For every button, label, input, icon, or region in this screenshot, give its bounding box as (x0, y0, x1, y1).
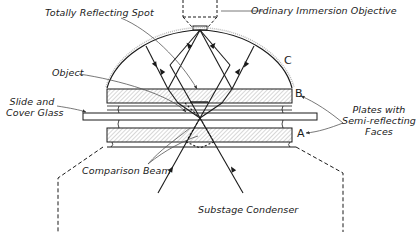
diagram-canvas: Totally Reflecting Spot Ordinary Immersi… (0, 0, 417, 232)
letter-b: B (295, 87, 303, 100)
label-ordinary-immersion-objective: Ordinary Immersion Objective (251, 5, 397, 16)
label-substage-condenser: Substage Condenser (198, 204, 298, 215)
label-comparison-beam: Comparison Beam (82, 165, 171, 176)
dome-c (107, 30, 292, 88)
letter-a: A (297, 127, 305, 140)
label-slide-and-cover-glass: Slide and Cover Glass (6, 96, 58, 118)
label-plates-with-semi-reflecting-faces: Plates with Semi-reflecting Faces (342, 104, 416, 137)
plate-b (107, 89, 292, 103)
ray-arrows (152, 41, 249, 173)
label-totally-reflecting-spot: Totally Reflecting Spot (45, 7, 154, 18)
plate-a (107, 128, 292, 142)
condenser-outline (58, 147, 343, 232)
objective-outline (183, 0, 217, 27)
letter-c: C (284, 54, 292, 67)
label-object: Object (52, 67, 84, 78)
